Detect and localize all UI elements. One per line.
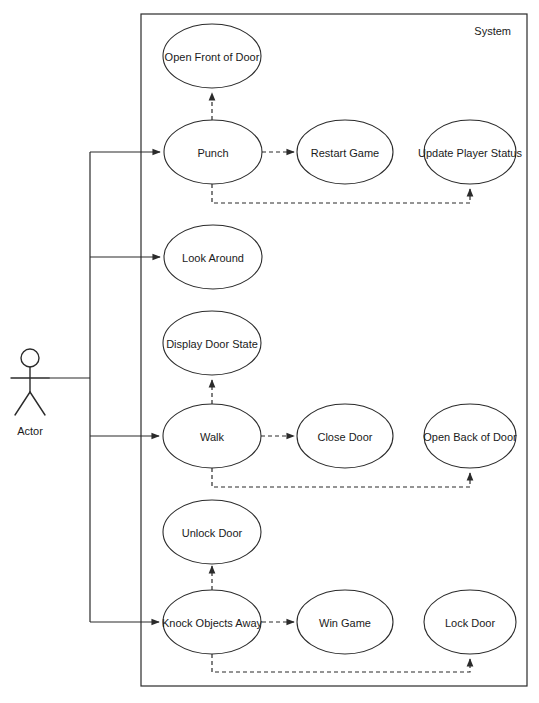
use-case-label: Punch bbox=[197, 147, 228, 159]
use-case-label: Unlock Door bbox=[182, 527, 243, 539]
use-case-update-player-status[interactable]: Update Player Status bbox=[418, 120, 522, 184]
use-case-close-door[interactable]: Close Door bbox=[297, 404, 393, 468]
use-case-look-around[interactable]: Look Around bbox=[164, 225, 262, 289]
use-case-label: Display Door State bbox=[166, 338, 258, 350]
dependency-punch-to-update-player-status[interactable] bbox=[212, 184, 470, 203]
use-case-label: Close Door bbox=[317, 431, 372, 443]
use-case-display-door-state[interactable]: Display Door State bbox=[163, 311, 261, 375]
use-case-open-back-of-door[interactable]: Open Back of Door bbox=[423, 404, 517, 468]
use-case-punch[interactable]: Punch bbox=[164, 120, 262, 184]
dependency-walk-to-open-back-of-door[interactable] bbox=[212, 468, 470, 487]
use-case-label: Open Front of Door bbox=[165, 51, 260, 63]
actor-left-leg-icon bbox=[15, 392, 30, 415]
use-case-walk[interactable]: Walk bbox=[163, 404, 261, 468]
use-case-knock-objects-away[interactable]: Knock Objects Away bbox=[162, 590, 263, 654]
use-case-label: Restart Game bbox=[311, 147, 379, 159]
actor-right-leg-icon bbox=[30, 392, 45, 415]
actor-head-icon bbox=[21, 349, 39, 367]
use-case-label: Open Back of Door bbox=[423, 431, 517, 443]
use-case-unlock-door[interactable]: Unlock Door bbox=[163, 500, 261, 564]
use-case-label: Win Game bbox=[319, 617, 371, 629]
use-case-restart-game[interactable]: Restart Game bbox=[297, 120, 393, 184]
use-case-lock-door[interactable]: Lock Door bbox=[424, 590, 516, 654]
actor-label: Actor bbox=[17, 425, 43, 437]
use-case-open-front-of-door[interactable]: Open Front of Door bbox=[163, 24, 261, 88]
use-case-label: Update Player Status bbox=[418, 147, 522, 159]
use-case-diagram: System Actor Open Front of Door Punch bbox=[0, 0, 539, 703]
system-boundary-label: System bbox=[474, 25, 511, 37]
use-case-label: Look Around bbox=[182, 252, 244, 264]
use-case-label: Walk bbox=[200, 431, 225, 443]
actor[interactable]: Actor bbox=[11, 349, 49, 437]
dependency-knock-objects-away-to-lock-door[interactable] bbox=[212, 654, 470, 672]
use-case-label: Knock Objects Away bbox=[162, 617, 263, 629]
use-case-label: Lock Door bbox=[445, 617, 495, 629]
actor-association-bus bbox=[49, 152, 90, 622]
use-case-win-game[interactable]: Win Game bbox=[297, 590, 393, 654]
